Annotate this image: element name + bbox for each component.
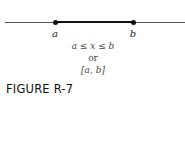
number-line-left	[5, 22, 55, 23]
interval-segment	[55, 21, 133, 23]
inequality-notation: a ≤ x ≤ b	[72, 41, 115, 51]
interval-notation: [a, b]	[81, 65, 105, 75]
point-label-b: b	[130, 28, 136, 39]
closed-endpoint-b	[131, 20, 136, 25]
point-label-a: a	[52, 28, 58, 39]
number-line-right	[133, 22, 185, 23]
connector-text: or	[88, 53, 98, 63]
closed-endpoint-a	[53, 20, 58, 25]
figure-caption: FIGURE R-7	[6, 82, 73, 96]
